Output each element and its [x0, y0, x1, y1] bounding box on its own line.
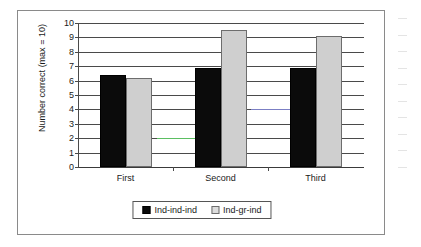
y-tick-label: 5	[56, 91, 74, 100]
y-axis-tick-labels: 012345678910	[56, 23, 74, 167]
y-tick-label: 3	[56, 119, 74, 128]
bar-third-ind-ind-ind	[290, 68, 316, 167]
ghost-text-line	[398, 117, 407, 118]
bar-third-ind-gr-ind	[316, 36, 342, 167]
ghost-text-line	[398, 35, 407, 36]
y-axis-title: Number correct (max = 10)	[37, 8, 47, 148]
y-tick-label: 8	[56, 47, 74, 56]
y-tick-label: 1	[56, 148, 74, 157]
ghost-text-line	[398, 84, 407, 85]
ghost-text-line	[398, 18, 407, 19]
x-category-label-first: First	[117, 173, 135, 183]
ghost-text-line	[398, 68, 407, 69]
y-tick-label: 10	[56, 19, 74, 28]
plot-area: Number correct (max = 10) 012345678910 F…	[18, 11, 386, 236]
x-category-label-second: Second	[205, 173, 236, 183]
chart-legend: Ind-ind-indInd-gr-ind	[132, 201, 271, 219]
x-category-label-third: Third	[305, 173, 326, 183]
legend-entry-ind-gr-ind: Ind-gr-ind	[211, 205, 262, 215]
ghost-text-line	[398, 150, 407, 151]
y-tick-label: 6	[56, 76, 74, 85]
y-tick-label: 4	[56, 105, 74, 114]
chart-figure-frame: Number correct (max = 10) 012345678910 F…	[17, 10, 385, 235]
legend-label: Ind-ind-ind	[154, 205, 197, 215]
bars-layer	[78, 23, 363, 167]
legend-swatch-ind-ind-ind	[142, 206, 150, 214]
bar-first-ind-gr-ind	[126, 78, 152, 167]
y-tick-label: 0	[56, 163, 74, 172]
ghost-text-line	[398, 51, 407, 52]
x-tick-mark	[268, 167, 269, 171]
page-margin-ghost-text	[398, 18, 414, 168]
x-tick-mark	[173, 167, 174, 171]
y-tick-label: 2	[56, 134, 74, 143]
y-tick-label: 7	[56, 62, 74, 71]
ghost-text-line	[398, 101, 407, 102]
bar-first-ind-ind-ind	[100, 75, 126, 167]
x-axis-tick-marks	[78, 167, 363, 172]
legend-swatch-ind-gr-ind	[211, 206, 219, 214]
bar-second-ind-ind-ind	[195, 68, 221, 167]
legend-entry-ind-ind-ind: Ind-ind-ind	[142, 205, 197, 215]
x-axis-category-labels: FirstSecondThird	[78, 173, 363, 187]
bar-second-ind-gr-ind	[221, 30, 247, 167]
legend-label: Ind-gr-ind	[223, 205, 262, 215]
y-tick-label: 9	[56, 33, 74, 42]
ghost-text-line	[398, 134, 407, 135]
ghost-text-line	[398, 167, 407, 168]
